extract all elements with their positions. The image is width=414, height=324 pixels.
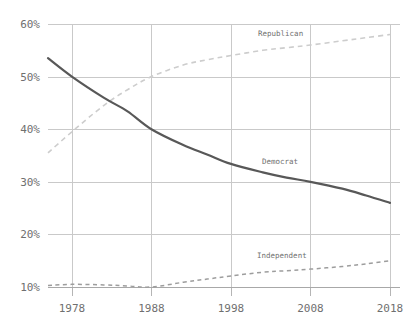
series-line-independent: [48, 261, 390, 287]
line-chart: 10%20%30%40%50%60% 19781988199820082018 …: [0, 0, 414, 324]
x-tick-label: 1978: [59, 302, 86, 315]
series-label-independent: Independent: [257, 251, 307, 260]
chart-container: 10%20%30%40%50%60% 19781988199820082018 …: [0, 0, 414, 324]
y-gridlines: [48, 25, 400, 288]
y-tick-label: 50%: [20, 71, 40, 84]
y-tick-label: 20%: [20, 228, 40, 241]
x-tick-label: 1998: [218, 302, 245, 315]
y-tick-labels: 10%20%30%40%50%60%: [20, 18, 40, 294]
x-tick-labels: 19781988199820082018: [59, 302, 404, 315]
series-label-republican: Republican: [258, 29, 303, 38]
series-label-democrat: Democrat: [262, 157, 298, 166]
y-tick-label: 30%: [20, 176, 40, 189]
x-axis-ticks: [73, 288, 391, 296]
x-tick-label: 2018: [377, 302, 404, 315]
x-gridlines: [73, 24, 391, 287]
series-line-democrat: [48, 58, 390, 203]
y-tick-label: 40%: [20, 123, 40, 136]
x-tick-label: 1988: [138, 302, 165, 315]
x-tick-label: 2008: [297, 302, 324, 315]
y-tick-label: 10%: [20, 281, 40, 294]
y-tick-label: 60%: [20, 18, 40, 31]
